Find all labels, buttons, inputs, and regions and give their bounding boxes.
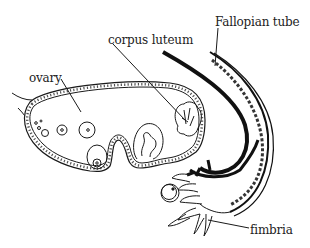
label-fallopian-tube: Fallopian tube — [215, 16, 299, 28]
label-ovary: ovary — [29, 72, 62, 84]
ovum — [161, 184, 179, 202]
ovary-fallopian-tube-diagram: ovary corpus luteum Fallopian tube fimbr… — [0, 0, 310, 248]
fallopian-tube-leader-line — [215, 28, 218, 66]
fimbriae — [168, 174, 230, 236]
fimbria-leader-line — [208, 220, 249, 228]
label-fimbria: fimbria — [250, 224, 293, 236]
label-corpus-luteum: corpus luteum — [108, 34, 193, 46]
